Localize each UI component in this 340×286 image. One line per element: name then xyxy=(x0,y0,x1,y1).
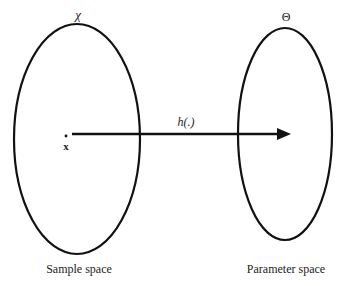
sample-point-label: x xyxy=(63,140,69,152)
mapping-arrowhead xyxy=(277,128,291,140)
sample-space-caption: Sample space xyxy=(46,262,112,276)
mapping-label: h(.) xyxy=(178,115,195,129)
parameter-space-caption: Parameter space xyxy=(247,262,325,276)
sample-point-dot xyxy=(65,135,68,138)
mapping-diagram: x χ Θ h(.) Sample space Parameter space xyxy=(0,0,340,286)
sample-space-ellipse xyxy=(14,24,140,254)
parameter-space-symbol: Θ xyxy=(282,10,291,24)
sample-space-symbol: χ xyxy=(73,7,81,22)
